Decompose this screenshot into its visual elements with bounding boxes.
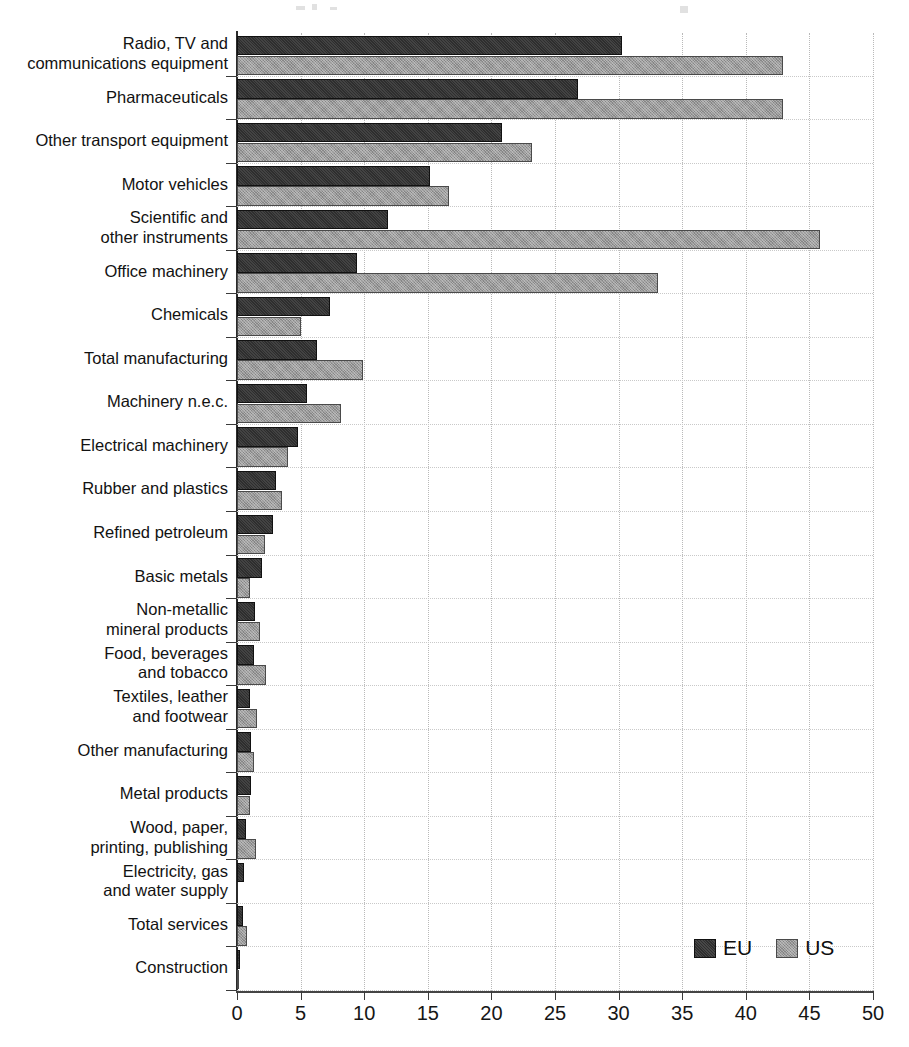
bar-eu [237,819,246,839]
x-axis-tick-label: 25 [544,1002,566,1025]
gridline-horizontal [237,337,873,339]
bar-us [237,186,449,206]
category-label: Chemicals [0,305,228,325]
bar-us [237,447,288,467]
scan-speck [312,4,317,10]
category-label: Electrical machinery [0,436,228,456]
gridline-horizontal [237,729,873,731]
bar-us [237,143,532,163]
bar-eu [237,558,262,578]
gridline-horizontal [237,685,873,687]
y-axis-tick [226,424,237,425]
category-label: Food, beverages and tobacco [0,644,228,683]
bar-eu [237,950,240,970]
bar-eu [237,253,357,273]
category-label: Metal products [0,784,228,804]
bar-eu [237,689,250,709]
x-axis-tick-label: 50 [862,1002,884,1025]
legend-swatch-us-icon [776,939,798,958]
x-axis-tick-label: 35 [671,1002,693,1025]
category-label: Pharmaceuticals [0,88,228,108]
bar-us [237,709,257,729]
category-label: Basic metals [0,567,228,587]
gridline-horizontal [237,903,873,905]
category-label: Scientific and other instruments [0,208,228,247]
x-axis-tick-label: 10 [353,1002,375,1025]
x-axis-tick [491,991,492,1000]
legend-label-us: US [805,936,834,960]
y-axis-tick [226,337,237,338]
bar-us [237,317,301,337]
y-axis-tick [226,555,237,556]
category-label: Machinery n.e.c. [0,392,228,412]
x-axis-tick-label: 30 [607,1002,629,1025]
y-axis-tick [226,729,237,730]
category-label: Electricity, gas and water supply [0,862,228,901]
x-axis-tick [809,991,810,1000]
x-axis-tick-label: 15 [417,1002,439,1025]
gridline-horizontal [237,380,873,382]
gridline-horizontal [237,816,873,818]
y-axis-tick [226,859,237,860]
bar-eu [237,79,578,99]
category-label: Other transport equipment [0,131,228,151]
bar-eu [237,297,330,317]
bar-eu [237,645,254,665]
x-axis-tick [237,991,238,1000]
bar-eu [237,166,430,186]
x-axis-tick [873,991,874,1000]
gridline-horizontal [237,119,873,121]
bar-eu [237,515,273,535]
category-label: Radio, TV and communications equipment [0,34,228,73]
x-axis-tick [428,991,429,1000]
gridline-horizontal [237,250,873,252]
x-axis-tick [682,991,683,1000]
x-axis-tick [301,991,302,1000]
bar-us [237,970,239,990]
gridline-horizontal [237,467,873,469]
y-axis-tick [226,772,237,773]
category-label: Total services [0,915,228,935]
category-label: Rubber and plastics [0,479,228,499]
bar-us [237,752,254,772]
category-label: Construction [0,958,228,978]
gridline-horizontal [237,206,873,208]
scan-speck [330,7,337,10]
bar-us [237,665,266,685]
gridline-horizontal [237,76,873,78]
y-axis-tick [226,816,237,817]
bar-eu [237,906,243,926]
x-axis-tick-label: 5 [295,1002,306,1025]
y-axis-tick [226,685,237,686]
x-axis-tick-label: 20 [480,1002,502,1025]
scan-speck [680,6,688,13]
bar-us [237,491,282,511]
gridline-horizontal [237,555,873,557]
bar-us [237,796,250,816]
category-label: Refined petroleum [0,523,228,543]
y-axis-tick [226,250,237,251]
bar-us [237,273,658,293]
legend-item-us: US [776,936,834,960]
x-axis-tick-label: 45 [798,1002,820,1025]
bar-us [237,99,783,119]
y-axis-tick [226,990,237,991]
y-axis-tick [226,903,237,904]
bar-eu [237,776,251,796]
plot-area [237,33,873,991]
category-label: Other manufacturing [0,741,228,761]
bar-us [237,360,363,380]
category-label: Office machinery [0,262,228,282]
gridline-horizontal [237,511,873,513]
category-label: Non-metallic mineral products [0,600,228,639]
bar-eu [237,36,622,56]
gridline-vertical [873,33,875,991]
bar-eu [237,123,502,143]
x-axis-tick-label: 40 [735,1002,757,1025]
gridline-horizontal [237,163,873,165]
y-axis-tick [226,598,237,599]
bar-eu [237,471,276,491]
y-axis-tick [226,642,237,643]
bar-eu [237,384,307,404]
category-label: Motor vehicles [0,175,228,195]
